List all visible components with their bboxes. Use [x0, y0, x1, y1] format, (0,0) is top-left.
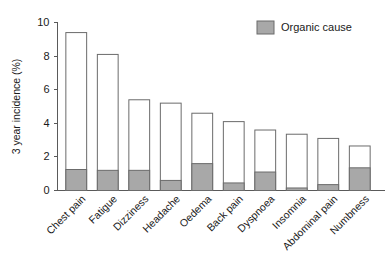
bar-organic-segment	[223, 183, 244, 191]
bar-total	[160, 103, 181, 190]
y-tick-label: 6	[43, 83, 49, 95]
bar-organic-segment	[255, 172, 276, 190]
y-tick-label: 8	[43, 50, 49, 62]
chart-canvas: 0246810 3 year incidence (%) Chest painF…	[0, 0, 385, 261]
y-tick-label: 10	[37, 16, 49, 28]
y-tick-label: 0	[43, 184, 49, 196]
x-axis-category-label: Chest pain	[44, 192, 88, 236]
y-tick-label: 2	[43, 150, 49, 162]
bar-organic-segment	[318, 185, 339, 191]
bar-organic-segment	[192, 164, 213, 191]
chart-legend: Organic cause	[257, 21, 352, 34]
bar-organic-segment	[160, 180, 181, 190]
bar-total	[318, 138, 339, 190]
y-axis-ticks: 0246810	[37, 16, 57, 196]
bar-organic-segment	[97, 170, 118, 190]
incidence-bar-chart: 0246810 3 year incidence (%) Chest painF…	[0, 0, 385, 261]
bar-total	[286, 134, 307, 190]
bars-group	[66, 33, 370, 191]
bar-organic-segment	[66, 170, 87, 191]
x-axis-category-label: Abdominal pain	[280, 192, 340, 252]
bar-organic-segment	[129, 170, 150, 190]
legend-label: Organic cause	[281, 21, 352, 33]
x-axis-category-labels: Chest painFatigueDizzinessHeadacheOedema…	[44, 192, 371, 252]
y-axis-title: 3 year incidence (%)	[10, 59, 22, 155]
bar-organic-segment	[349, 168, 370, 191]
y-tick-label: 4	[43, 117, 49, 129]
bar-organic-segment	[286, 188, 307, 191]
bar-total	[223, 122, 244, 191]
bar-total	[66, 33, 87, 191]
legend-swatch-organic-cause	[257, 21, 274, 34]
